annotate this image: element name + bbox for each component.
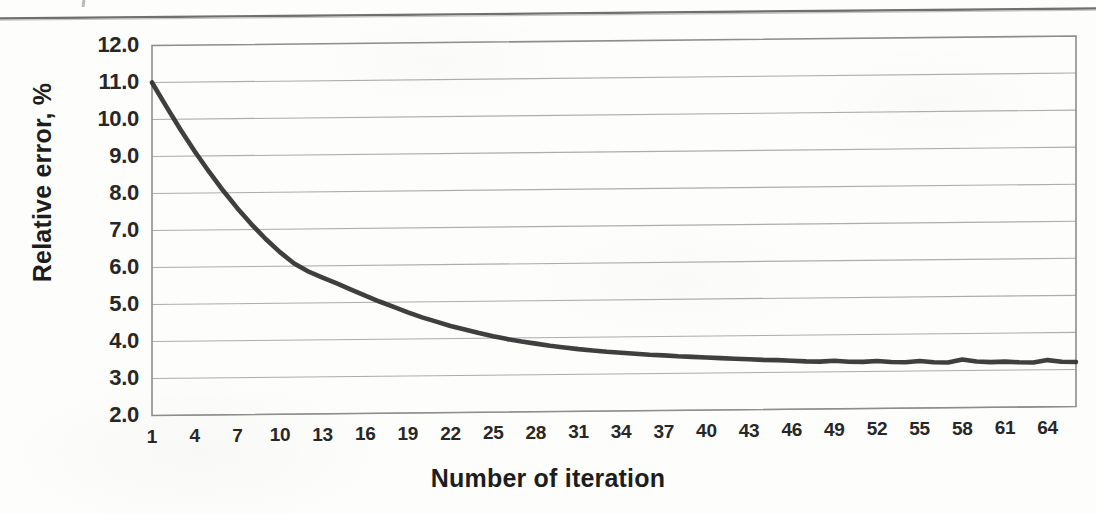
x-axis-tick-label: 16: [345, 423, 385, 445]
x-axis-tick-label: 34: [601, 421, 641, 443]
x-axis-tick-label: 1: [132, 426, 172, 448]
x-axis-tick-label: 13: [303, 424, 343, 446]
x-axis-tick-label: 49: [814, 419, 854, 441]
x-axis-tick-label: 61: [985, 417, 1025, 439]
x-axis-tick-label: 43: [729, 420, 769, 442]
x-axis-title: Number of iteration: [0, 464, 1096, 493]
x-axis-tick-label: 52: [857, 418, 897, 440]
chart-figure: Relative error, % 12.011.010.09.08.07.06…: [0, 0, 1096, 514]
x-axis-tick-label: 37: [644, 421, 684, 443]
x-axis-tick-label: 22: [431, 423, 471, 445]
x-axis-tick-label: 58: [942, 418, 982, 440]
x-axis-tick-label: 31: [558, 421, 598, 443]
x-axis-tick-label: 28: [516, 422, 556, 444]
x-axis-tick-label: 46: [772, 419, 812, 441]
x-axis-tick-label: 64: [1028, 417, 1068, 439]
x-axis-tick-label: 19: [388, 423, 428, 445]
x-axis-tick-label: 7: [217, 425, 257, 447]
x-axis-tick-label: 55: [900, 418, 940, 440]
x-axis-tick-label: 4: [175, 425, 215, 447]
x-axis-tick-label: 40: [686, 420, 726, 442]
x-axis-tick-label: 10: [260, 424, 300, 446]
x-axis-tick-label: 25: [473, 422, 513, 444]
